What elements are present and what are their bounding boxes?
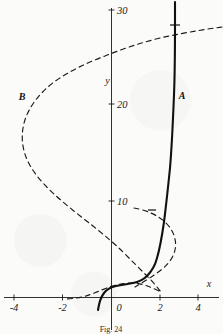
x-tick-label-2: 2 xyxy=(157,302,163,313)
curve-b-right-lobe xyxy=(134,208,176,287)
x-axis-label: x xyxy=(206,278,212,289)
curve-label-a: A xyxy=(178,90,186,101)
y-tick-label-10: 10 xyxy=(117,196,128,207)
x-tick-label-4: 4 xyxy=(195,302,201,313)
plot-svg: -4 -2 0 2 4 10 20 30 x y A B Fig. 24 xyxy=(0,0,223,334)
curve-label-b: B xyxy=(18,91,26,102)
x-tick-label--4: -4 xyxy=(10,302,19,313)
x-tick-label-0: 0 xyxy=(116,302,122,313)
y-axis-label: y xyxy=(104,75,110,86)
y-tick-label-30: 30 xyxy=(116,5,128,16)
axes-group xyxy=(4,8,219,330)
curve-b-dashed xyxy=(22,27,222,299)
figure-panel: -4 -2 0 2 4 10 20 30 x y A B Fig. 24 xyxy=(0,0,223,334)
y-tick-label-20: 20 xyxy=(117,99,128,110)
x-tick-labels: -4 -2 0 2 4 xyxy=(10,302,202,313)
curve-a-solid xyxy=(98,2,175,310)
figure-caption: Fig. 24 xyxy=(100,325,123,334)
x-tick-label--2: -2 xyxy=(58,302,67,313)
y-tick-labels: 10 20 30 xyxy=(116,5,128,207)
